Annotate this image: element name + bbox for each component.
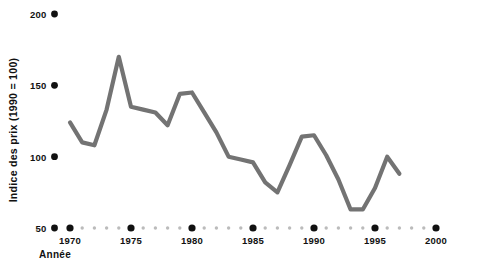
x-minor-tick-dot (276, 226, 279, 229)
x-minor-tick-dot (386, 226, 389, 229)
x-minor-tick-dot (398, 226, 401, 229)
x-minor-tick-dot (337, 226, 340, 229)
y-tick-label: 200 (30, 9, 49, 20)
x-minor-tick-dot (422, 226, 425, 229)
x-minor-tick-dot (105, 226, 108, 229)
x-minor-tick-dot (215, 226, 218, 229)
x-axis-tick-dots (66, 224, 439, 231)
x-tick-dot (310, 224, 317, 231)
y-tick-label: 50 (36, 223, 50, 234)
price-index-line-chart: Indice des prix (1990 = 100) 50100150200… (0, 0, 482, 273)
x-tick-label: 2000 (425, 235, 447, 246)
x-tick-label: 1970 (59, 235, 81, 246)
y-tick-label: 100 (30, 151, 49, 162)
x-tick-dot (249, 224, 256, 231)
x-tick-label: 1980 (181, 235, 203, 246)
x-tick-dot (432, 224, 439, 231)
x-minor-tick-dot (325, 226, 328, 229)
x-minor-tick-dot (178, 226, 181, 229)
x-minor-tick-dot (142, 226, 145, 229)
y-tick-dot (51, 153, 58, 160)
x-minor-tick-dot (264, 226, 267, 229)
price-index-data-line (70, 57, 399, 210)
y-axis-tick-dots (51, 11, 58, 232)
x-minor-tick-dot (361, 226, 364, 229)
x-minor-tick-dot (93, 226, 96, 229)
y-axis-title: Indice des prix (1990 = 100) (7, 58, 19, 203)
chart-plot-area: Indice des prix (1990 = 100) (0, 0, 482, 273)
y-tick-dot (51, 82, 58, 89)
x-axis-title: Année (39, 249, 71, 260)
x-tick-dot (66, 224, 73, 231)
x-minor-tick-dot (203, 226, 206, 229)
x-minor-tick-dot (239, 226, 242, 229)
x-minor-tick-dot (154, 226, 157, 229)
x-tick-dot (188, 224, 195, 231)
x-minor-tick-dot (117, 226, 120, 229)
x-minor-tick-dot (81, 226, 84, 229)
x-minor-tick-dot (166, 226, 169, 229)
x-minor-tick-dot (288, 226, 291, 229)
x-tick-dot (127, 224, 134, 231)
x-minor-tick-dot (227, 226, 230, 229)
y-tick-dot (51, 11, 58, 18)
x-tick-label: 1990 (303, 235, 325, 246)
x-minor-tick-dot (410, 226, 413, 229)
x-tick-label: 1975 (120, 235, 142, 246)
x-tick-label: 1985 (242, 235, 264, 246)
y-tick-label: 150 (30, 80, 49, 91)
y-tick-dot (51, 225, 58, 232)
x-minor-tick-dot (349, 226, 352, 229)
x-tick-dot (371, 224, 378, 231)
x-minor-tick-dot (300, 226, 303, 229)
x-tick-label: 1995 (364, 235, 386, 246)
